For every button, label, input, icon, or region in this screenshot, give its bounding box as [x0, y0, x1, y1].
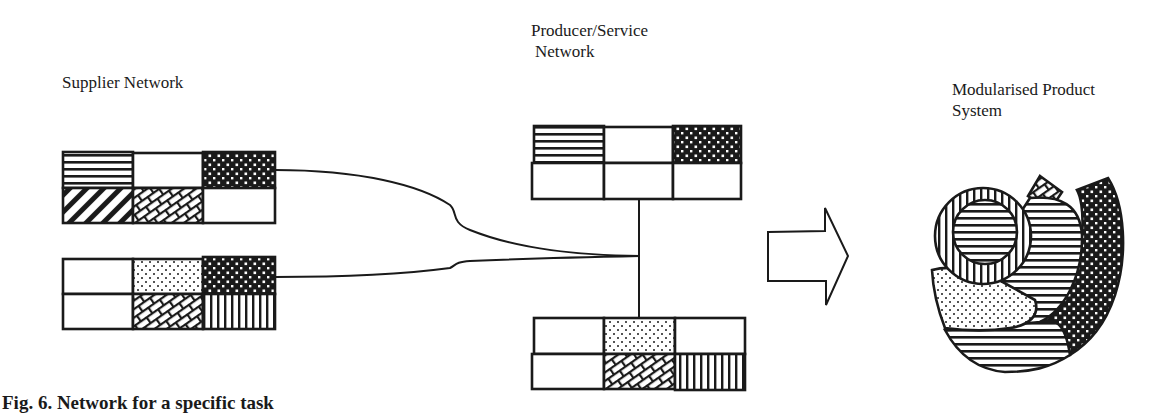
supplier-block-top — [63, 152, 275, 223]
core-horizontal-lines — [953, 200, 1017, 264]
producer-block-top — [532, 126, 741, 199]
supplier-block-bottom — [63, 257, 275, 329]
network-diagram — [0, 0, 1175, 420]
modular-product-graphic — [932, 176, 1123, 372]
producer-block-bottom — [532, 318, 745, 390]
arrow-right-icon — [768, 208, 848, 305]
connector-bottom-supplier — [275, 256, 640, 277]
